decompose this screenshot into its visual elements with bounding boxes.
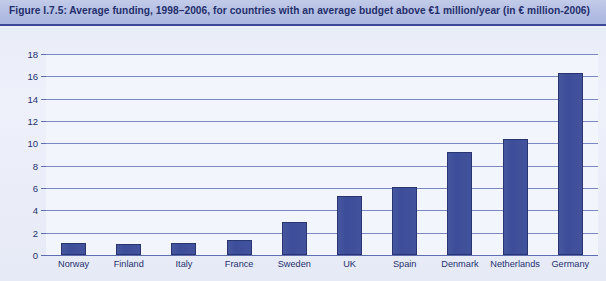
y-axis-tick-label: 4: [6, 205, 38, 216]
bar[interactable]: [558, 73, 583, 255]
y-axis-tick-label: 10: [6, 138, 38, 149]
chart-body: 181614121086420 NorwayFinlandItalyFrance…: [0, 28, 606, 281]
x-axis-label: Finland: [101, 259, 156, 275]
bar[interactable]: [116, 244, 141, 255]
y-axis-tick-mark: [41, 255, 46, 256]
bar-slot: [101, 54, 156, 255]
figure-container: Figure I.7.5: Average funding, 1998–2006…: [0, 0, 606, 281]
bar[interactable]: [503, 139, 528, 255]
x-axis-label: Sweden: [267, 259, 322, 275]
figure-title: Figure I.7.5: Average funding, 1998–2006…: [9, 5, 590, 16]
x-axis-labels: NorwayFinlandItalyFranceSwedenUKSpainDen…: [46, 259, 598, 275]
bar-slot: [322, 54, 377, 255]
bar-series: [46, 54, 598, 255]
bar-slot: [156, 54, 211, 255]
x-axis-label: UK: [322, 259, 377, 275]
bar[interactable]: [227, 240, 252, 255]
figure-title-banner: Figure I.7.5: Average funding, 1998–2006…: [0, 0, 606, 26]
gridline: [46, 255, 598, 256]
bar-slot: [212, 54, 267, 255]
x-axis-label: Spain: [377, 259, 432, 275]
y-axis-tick-label: 14: [6, 93, 38, 104]
bar[interactable]: [337, 196, 362, 255]
x-axis-label: Denmark: [432, 259, 487, 275]
bar[interactable]: [282, 222, 307, 256]
bar[interactable]: [61, 243, 86, 255]
y-axis-tick-label: 6: [6, 183, 38, 194]
bar-slot: [267, 54, 322, 255]
y-axis-tick-label: 18: [6, 49, 38, 60]
bar-slot: [543, 54, 598, 255]
y-axis-tick-label: 2: [6, 227, 38, 238]
y-axis-tick-label: 12: [6, 116, 38, 127]
bar-slot: [377, 54, 432, 255]
x-axis-label: Italy: [156, 259, 211, 275]
bar-slot: [432, 54, 487, 255]
y-axis-tick-label: 0: [6, 250, 38, 261]
bar[interactable]: [392, 187, 417, 255]
x-axis-label: Norway: [46, 259, 101, 275]
x-axis-label: Netherlands: [488, 259, 543, 275]
bar[interactable]: [447, 152, 472, 255]
y-axis-tick-label: 16: [6, 71, 38, 82]
bar-slot: [46, 54, 101, 255]
x-axis-label: Germany: [543, 259, 598, 275]
bar[interactable]: [171, 243, 196, 255]
bar-slot: [488, 54, 543, 255]
y-axis-tick-label: 8: [6, 160, 38, 171]
x-axis-label: France: [212, 259, 267, 275]
